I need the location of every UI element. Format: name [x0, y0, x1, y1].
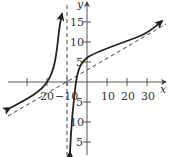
function-graph: 20 −10 10 20 30 15 10 5 5 10 5 x y [0, 0, 169, 157]
y-tick-label-15: 15 [70, 16, 84, 29]
y-tick-label-neg15: 5 [76, 136, 83, 149]
y-tick-label-neg10: 10 [70, 116, 84, 129]
x-tick-label-10: 10 [101, 90, 115, 103]
x-tick-label-20: 20 [121, 90, 135, 103]
y-tick-label-10: 10 [70, 36, 84, 49]
x-tick-label-neg20: 20 [40, 90, 54, 103]
y-tick-label-neg5: 5 [76, 96, 83, 109]
x-axis-label: x [160, 83, 167, 96]
x-tick-label-30: 30 [141, 90, 155, 103]
y-axis-label: y [76, 0, 84, 11]
x-tick-label-neg10: −10 [55, 90, 78, 103]
y-tick-label-5: 5 [76, 56, 83, 69]
